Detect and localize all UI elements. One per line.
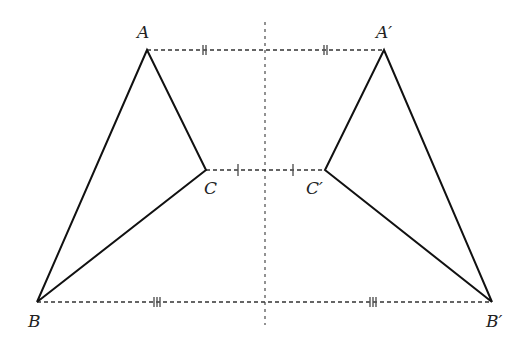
triangle-ABC <box>37 50 206 302</box>
reflection-diagram <box>0 0 527 348</box>
triangle-A-prime-B-prime-C-prime <box>325 50 492 302</box>
label-C-prime: C′ <box>306 180 323 197</box>
label-A-prime: A′ <box>376 24 392 41</box>
label-B-prime: B′ <box>486 313 502 330</box>
label-A: A <box>137 24 149 41</box>
label-C: C <box>204 180 217 197</box>
label-B: B <box>28 313 41 330</box>
